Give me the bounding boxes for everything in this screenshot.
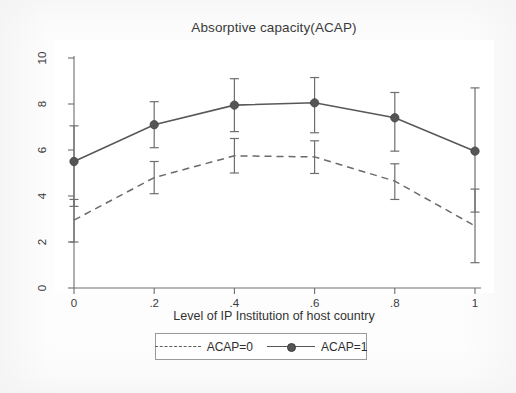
data-point-ACAP1-1 — [150, 121, 158, 129]
chart-legend: ACAP=0 ACAP=1 — [155, 333, 367, 360]
legend-label-acap1: ACAP=1 — [321, 340, 367, 354]
x-axis-label: Level of IP Institution of host country — [54, 309, 494, 323]
legend-label-acap0: ACAP=0 — [207, 340, 253, 354]
x-tick-label-5: 1 — [472, 297, 478, 309]
legend-entry-acap0[interactable]: ACAP=0 — [155, 340, 253, 354]
data-point-ACAP1-2 — [230, 101, 238, 109]
series-group — [70, 78, 480, 263]
x-tick-label-1: .2 — [149, 297, 159, 309]
dashed-line-key-icon — [155, 346, 201, 347]
data-point-ACAP1-4 — [391, 114, 399, 122]
data-point-ACAP1-5 — [471, 147, 479, 155]
x-tick-label-4: .8 — [390, 297, 400, 309]
y-tick-label-8: 8 — [36, 101, 48, 107]
y-tick-label-4: 4 — [36, 192, 48, 199]
axes-group: 02468100.2.4.6.81 — [36, 52, 481, 309]
data-point-ACAP1-0 — [70, 157, 78, 165]
error-bar-ACAP1-0 — [70, 126, 79, 207]
y-tick-label-6: 6 — [36, 147, 48, 153]
series-line-ACAP0 — [74, 156, 475, 226]
legend-entry-acap1[interactable]: ACAP=1 — [267, 340, 367, 354]
y-tick-label-0: 0 — [36, 285, 48, 291]
data-point-ACAP1-3 — [310, 99, 318, 107]
solid-line-marker-key-icon — [267, 342, 315, 352]
y-tick-label-2: 2 — [36, 239, 48, 245]
series-line-ACAP1 — [74, 103, 475, 162]
x-tick-label-3: .6 — [310, 297, 320, 309]
figure-page: Absorptive capacity(ACAP) 02468100.2.4.6… — [0, 0, 516, 393]
x-tick-label-2: .4 — [230, 297, 240, 309]
y-tick-label-10: 10 — [36, 52, 48, 65]
x-tick-label-0: 0 — [71, 297, 77, 309]
